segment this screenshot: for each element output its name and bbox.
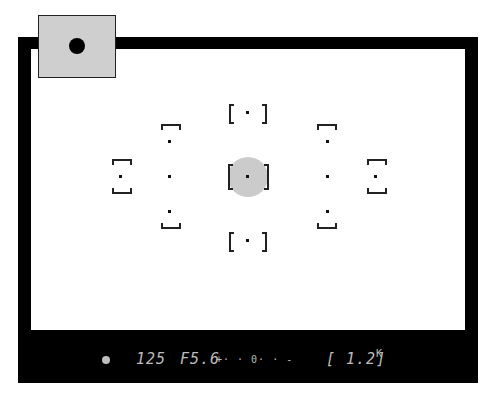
exposure-scale: +· · 0· · -	[216, 354, 293, 365]
shutter-speed: 125	[136, 350, 166, 368]
metering-mode-indicator	[38, 15, 116, 78]
aperture: F5.6	[180, 350, 220, 368]
frame-count-suffix: K	[376, 348, 383, 359]
focus-indicator-icon	[102, 356, 110, 364]
spot-metering-icon	[69, 38, 85, 54]
